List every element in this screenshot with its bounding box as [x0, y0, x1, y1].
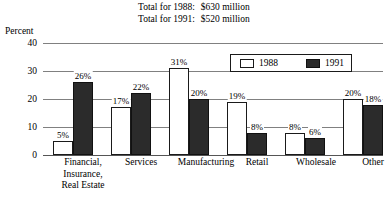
bar-1991-retail[interactable]: 8% — [247, 133, 267, 155]
bar-value-label: 31% — [170, 57, 189, 67]
total-1991-row: Total for 1991:$520 million — [138, 14, 250, 26]
legend-swatch-1988-icon — [240, 59, 254, 68]
bar-1988-manufacturing[interactable]: 31% — [169, 68, 189, 155]
bar-1991-financial-insurance-real-estate[interactable]: 26% — [73, 82, 93, 155]
total-1988-value: $630 million — [195, 2, 250, 14]
legend-label-1988: 1988 — [259, 58, 278, 68]
bar-value-label: 18% — [364, 94, 383, 104]
bar-value-label: 22% — [132, 82, 151, 92]
bar-1988-services[interactable]: 17% — [111, 107, 131, 155]
bar-value-label: 8% — [288, 122, 302, 132]
bar-value-label: 19% — [228, 91, 247, 101]
x-label-line-3: Real Estate — [43, 180, 123, 192]
legend-swatch-1991-icon — [306, 59, 320, 68]
legend-item-1991[interactable]: 1991 — [306, 58, 344, 68]
legend-item-1988[interactable]: 1988 — [240, 58, 278, 68]
total-1991-label: Total for 1991: — [138, 14, 195, 26]
bar-value-label: 20% — [190, 88, 209, 98]
y-tick-30: 30 — [3, 66, 37, 76]
bar-1988-other[interactable]: 20% — [343, 99, 363, 155]
bar-1988-financial-insurance-real-estate[interactable]: 5% — [53, 141, 73, 155]
bar-1991-wholesale[interactable]: 6% — [305, 138, 325, 155]
bar-value-label: 20% — [344, 88, 363, 98]
x-axis-labels: Financial, Insurance, Real Estate Servic… — [43, 157, 383, 207]
x-label-line-1: Other — [333, 157, 390, 169]
y-axis-title: Percent — [5, 26, 34, 37]
bar-1988-wholesale[interactable]: 8% — [285, 133, 305, 155]
x-label-line-2: Insurance, — [43, 169, 123, 181]
bar-value-label: 8% — [250, 122, 264, 132]
y-tick-0: 0 — [3, 150, 37, 160]
chart-totals-annotation: Total for 1988:$630 million Total for 19… — [138, 2, 250, 25]
axis-baseline-0 — [43, 155, 383, 156]
y-tick-40: 40 — [3, 38, 37, 48]
total-1988-label: Total for 1988: — [138, 2, 195, 14]
y-tick-10: 10 — [3, 122, 37, 132]
x-label-other: Other — [333, 157, 390, 169]
bar-1991-manufacturing[interactable]: 20% — [189, 99, 209, 155]
bar-value-label: 5% — [56, 130, 70, 140]
total-1991-value: $520 million — [195, 14, 250, 26]
bar-value-label: 26% — [74, 71, 93, 81]
y-tick-20: 20 — [3, 94, 37, 104]
bar-1991-other[interactable]: 18% — [363, 105, 383, 155]
chart-legend: 1988 1991 — [230, 54, 352, 72]
bar-1991-services[interactable]: 22% — [131, 93, 151, 155]
bar-value-label: 6% — [308, 127, 322, 137]
bar-value-label: 17% — [112, 96, 131, 106]
total-1988-row: Total for 1988:$630 million — [138, 2, 250, 14]
bar-1988-retail[interactable]: 19% — [227, 102, 247, 155]
bar-chart: Total for 1988:$630 million Total for 19… — [0, 0, 390, 208]
legend-label-1991: 1991 — [325, 58, 344, 68]
